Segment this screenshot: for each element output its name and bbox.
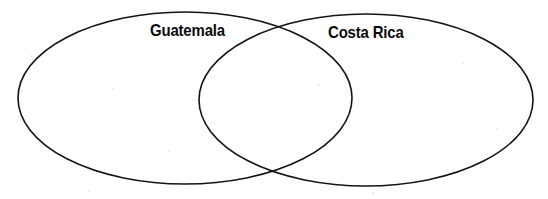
venn-label-left: Guatemala — [150, 22, 225, 40]
venn-canvas — [0, 0, 548, 199]
venn-diagram: Guatemala Costa Rica — [0, 0, 548, 199]
venn-label-right: Costa Rica — [328, 24, 404, 42]
